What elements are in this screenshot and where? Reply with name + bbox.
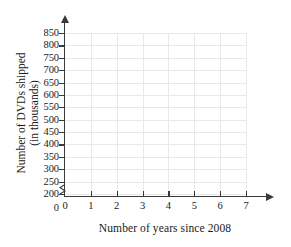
y-axis-title: Number of DVDs shipped (in thousands) <box>15 23 41 203</box>
plot-area <box>65 33 246 194</box>
x-axis-title: Number of years since 2008 <box>55 222 275 234</box>
y-axis-tick <box>59 70 65 71</box>
y-axis-title-line1: Number of DVDs shipped <box>15 52 27 173</box>
gridline-vertical <box>220 33 221 194</box>
gridline-horizontal <box>65 58 246 59</box>
x-axis-tick-label: 1 <box>80 200 102 211</box>
gridline-horizontal <box>65 157 246 158</box>
x-axis-line <box>64 196 269 197</box>
x-axis-arrow-icon <box>266 193 274 201</box>
x-axis-tick <box>246 191 247 197</box>
y-axis-tick <box>59 107 65 108</box>
x-axis-tick-label: 2 <box>106 200 128 211</box>
y-axis-title-line2: (in thousands) <box>28 23 41 203</box>
gridline-horizontal <box>65 33 246 34</box>
y-axis-tick <box>59 169 65 170</box>
y-axis-tick <box>59 58 65 59</box>
x-axis-tick-label: 0 <box>54 200 76 211</box>
gridline-vertical <box>143 33 144 194</box>
x-axis-tick <box>117 191 118 197</box>
gridline-vertical <box>117 33 118 194</box>
y-axis-arrow-icon <box>61 15 69 23</box>
x-axis-tick-label: 3 <box>132 200 154 211</box>
gridline-horizontal <box>65 194 246 195</box>
gridline-horizontal <box>65 169 246 170</box>
y-axis-tick <box>59 157 65 158</box>
x-axis-tick-label: 7 <box>235 200 257 211</box>
gridline-horizontal <box>65 45 246 46</box>
gridline-vertical <box>168 33 169 194</box>
y-axis-line <box>64 22 65 197</box>
gridline-horizontal <box>65 70 246 71</box>
y-axis-tick <box>59 45 65 46</box>
chart-container: 8508007507006506005505004504003503002502… <box>0 0 291 247</box>
y-axis-tick <box>59 132 65 133</box>
gridline-vertical <box>194 33 195 194</box>
x-axis-tick-label: 5 <box>183 200 205 211</box>
gridline-vertical <box>91 33 92 194</box>
y-axis-tick <box>59 83 65 84</box>
y-axis-tick <box>59 33 65 34</box>
x-axis-tick <box>220 191 221 197</box>
x-axis-tick-label: 6 <box>209 200 231 211</box>
y-axis-tick <box>59 144 65 145</box>
y-axis-tick <box>59 95 65 96</box>
gridline-horizontal <box>65 182 246 183</box>
y-axis-tick <box>59 120 65 121</box>
gridline-horizontal <box>65 107 246 108</box>
gridline-horizontal <box>65 120 246 121</box>
gridline-horizontal <box>65 132 246 133</box>
gridline-horizontal <box>65 144 246 145</box>
gridline-vertical <box>246 33 247 194</box>
x-axis-tick <box>168 191 169 197</box>
axis-break-icon <box>59 183 70 195</box>
gridline-horizontal <box>65 95 246 96</box>
x-axis-tick <box>91 191 92 197</box>
x-axis-tick-label: 4 <box>157 200 179 211</box>
gridline-horizontal <box>65 83 246 84</box>
x-axis-tick <box>143 191 144 197</box>
x-axis-tick <box>194 191 195 197</box>
